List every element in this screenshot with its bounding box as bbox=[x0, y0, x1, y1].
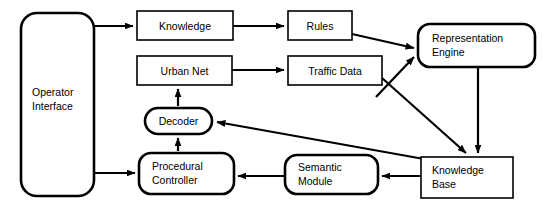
node-traffic-data[interactable] bbox=[288, 56, 382, 85]
node-procedural-controller[interactable] bbox=[139, 153, 234, 194]
edge-rules-to-representation bbox=[352, 34, 414, 48]
diagram-canvas bbox=[0, 0, 543, 214]
edge-knowledge-base-to-decoder bbox=[217, 122, 424, 159]
node-urban-net[interactable] bbox=[137, 56, 232, 85]
block-diagram: Operator InterfaceKnowledgeRulesRepresen… bbox=[0, 0, 543, 214]
node-semantic-module[interactable] bbox=[285, 155, 378, 194]
node-operator-interface[interactable] bbox=[21, 13, 94, 196]
node-representation-engine[interactable] bbox=[418, 24, 535, 67]
edge-traffic-data-to-knowledge-base bbox=[382, 78, 466, 153]
node-knowledge[interactable] bbox=[137, 11, 233, 40]
node-rules[interactable] bbox=[288, 11, 352, 40]
node-decoder[interactable] bbox=[145, 108, 212, 134]
node-knowledge-base[interactable] bbox=[421, 157, 513, 198]
nodes-layer bbox=[21, 11, 535, 198]
